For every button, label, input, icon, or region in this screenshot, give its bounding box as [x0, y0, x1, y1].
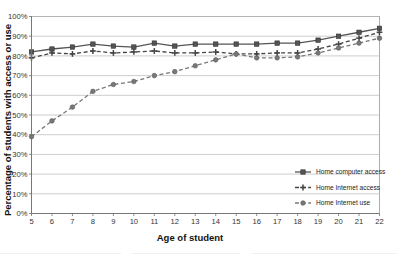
- data-point-0-9: [214, 42, 218, 46]
- data-point-2-13: [295, 55, 300, 60]
- x-tick-label-12: 12: [171, 217, 179, 226]
- x-axis-title: Age of student: [157, 232, 224, 243]
- data-point-2-17: [377, 36, 382, 41]
- data-point-2-4: [111, 82, 116, 87]
- data-point-2-1: [50, 119, 55, 124]
- x-tick-label-16: 16: [252, 217, 260, 226]
- data-point-2-14: [316, 51, 321, 56]
- y-tick-label-80: 80%: [12, 52, 27, 61]
- data-point-0-7: [173, 44, 177, 48]
- x-tick-label-17: 17: [273, 217, 281, 226]
- x-tick-label-18: 18: [293, 217, 301, 226]
- x-tick-label-8: 8: [91, 217, 95, 226]
- x-tick-label-10: 10: [130, 217, 138, 226]
- x-tick-label-5: 5: [29, 217, 33, 226]
- data-point-2-9: [213, 58, 218, 63]
- data-point-2-8: [193, 63, 198, 68]
- data-point-0-6: [152, 41, 156, 45]
- data-point-0-16: [357, 30, 361, 34]
- y-axis-title: Percentage of students with access or us…: [2, 24, 13, 216]
- x-tick-label-15: 15: [232, 217, 240, 226]
- legend-label-2: Home Internet use: [316, 199, 371, 206]
- data-point-2-6: [152, 73, 157, 78]
- data-point-0-10: [234, 42, 238, 46]
- data-point-2-3: [91, 89, 96, 94]
- y-tick-label-90: 90%: [12, 32, 27, 41]
- page-text-fragment: [0, 249, 397, 257]
- x-tick-label-21: 21: [355, 217, 363, 226]
- line-chart: 0%10%20%30%40%50%60%70%80%90%100% 567891…: [0, 0, 397, 257]
- x-tick-label-7: 7: [70, 217, 74, 226]
- data-point-2-11: [254, 56, 259, 61]
- data-point-2-10: [234, 52, 239, 57]
- data-point-2-5: [132, 79, 137, 84]
- data-point-0-12: [275, 41, 279, 45]
- x-tick-label-14: 14: [212, 217, 220, 226]
- x-tick-label-22: 22: [375, 217, 383, 226]
- data-point-0-15: [336, 34, 340, 38]
- data-point-0-8: [193, 42, 197, 46]
- legend-marker-0: [301, 170, 305, 174]
- y-tick-label-30: 30%: [12, 150, 27, 159]
- legend-marker-2: [301, 201, 306, 206]
- data-point-2-7: [172, 69, 177, 74]
- y-tick-label-50: 50%: [12, 111, 27, 120]
- y-tick-label-0: 0%: [17, 209, 28, 218]
- x-tick-label-6: 6: [50, 217, 54, 226]
- data-point-0-13: [295, 41, 299, 45]
- x-tick-label-19: 19: [314, 217, 322, 226]
- data-point-2-15: [336, 46, 341, 51]
- data-point-0-5: [132, 45, 136, 49]
- y-tick-label-40: 40%: [12, 130, 27, 139]
- y-tick-label-20: 20%: [12, 170, 27, 179]
- data-point-0-11: [254, 42, 258, 46]
- chart-figure: 0%10%20%30%40%50%60%70%80%90%100% 567891…: [0, 0, 397, 257]
- legend-label-0: Home computer access: [316, 168, 386, 176]
- data-point-0-2: [70, 45, 74, 49]
- y-tick-label-10: 10%: [12, 190, 27, 199]
- data-point-2-2: [70, 105, 75, 110]
- y-tick-label-60: 60%: [12, 91, 27, 100]
- x-tick-label-9: 9: [111, 217, 115, 226]
- legend-label-1: Home Internet access: [316, 184, 381, 191]
- x-tick-label-20: 20: [334, 217, 342, 226]
- data-point-2-16: [357, 41, 362, 46]
- data-point-2-12: [275, 56, 280, 61]
- x-tick-label-11: 11: [150, 217, 158, 226]
- data-point-0-3: [91, 42, 95, 46]
- x-tick-label-13: 13: [191, 217, 199, 226]
- y-tick-label-70: 70%: [12, 71, 27, 80]
- data-point-0-4: [111, 44, 115, 48]
- y-tick-label-100: 100%: [8, 12, 28, 21]
- data-point-0-14: [316, 38, 320, 42]
